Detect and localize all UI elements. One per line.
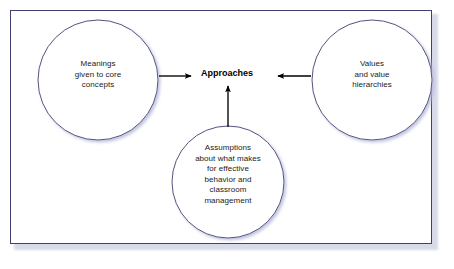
circle-label-values: Values and value hierarchies <box>322 59 422 91</box>
diagram-figure: Meanings given to core concepts Values a… <box>0 0 454 269</box>
center-label-approaches: Approaches <box>170 68 284 78</box>
circle-label-assumptions: Assumptions about what makes for effecti… <box>176 143 280 206</box>
circle-label-meanings: Meanings given to core concepts <box>48 59 148 91</box>
diagram-canvas <box>0 0 454 269</box>
